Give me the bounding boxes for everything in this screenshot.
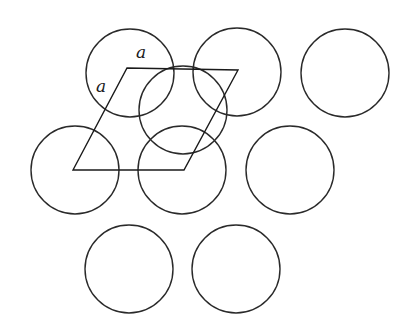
lattice-parameter-labels: aa [96, 42, 146, 96]
atom-circle-top-3 [301, 29, 389, 117]
hcp-unit-cell-diagram: aa [0, 0, 412, 327]
label-a-left: a [96, 76, 106, 96]
label-a-top: a [136, 42, 146, 62]
atom-circle-bot-1 [85, 225, 173, 313]
atom-circle-bot-2 [192, 225, 280, 313]
atom-circle-mid-3 [246, 126, 334, 214]
atom-circle-top-1 [86, 29, 174, 117]
diagram-canvas: aa [0, 0, 412, 327]
